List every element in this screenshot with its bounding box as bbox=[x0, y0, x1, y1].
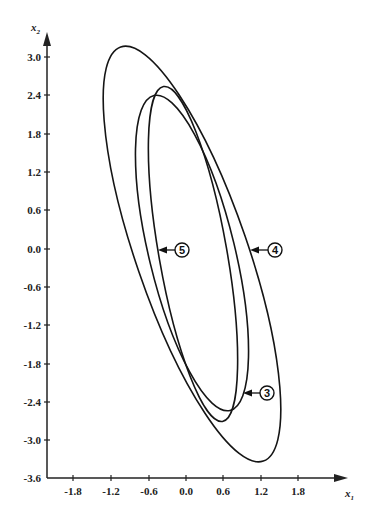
ellipse-3 bbox=[112, 85, 272, 420]
x-tick-label: 1.8 bbox=[291, 485, 305, 497]
y-tick-labels: 3.0 2.4 1.8 1.2 0.6 0.0 -0.6 -1.2 -1.8 -… bbox=[24, 51, 42, 484]
x-tick-label: -0.6 bbox=[140, 485, 158, 497]
y-tick-label: 1.8 bbox=[27, 128, 41, 140]
y-tick-label: -3.6 bbox=[24, 472, 42, 484]
x-axis bbox=[47, 474, 348, 482]
x-tick-labels: -1.8 -1.2 -0.6 0.0 0.6 1.2 1.8 bbox=[64, 485, 305, 497]
x-tick-label: 1.2 bbox=[254, 485, 268, 497]
y-tick-label: -1.8 bbox=[24, 358, 42, 370]
y-tick-label: 3.0 bbox=[27, 51, 41, 63]
x-tick-label: -1.2 bbox=[102, 485, 120, 497]
x-tick-label: 0.0 bbox=[179, 485, 193, 497]
y-tick-label: 1.2 bbox=[27, 166, 41, 178]
y-axis-arrow-icon bbox=[43, 32, 51, 46]
x-tick-label: -1.8 bbox=[64, 485, 82, 497]
callout-4: 4 bbox=[250, 243, 282, 257]
x-tick-label: 0.6 bbox=[216, 485, 230, 497]
callout-5: 5 bbox=[158, 243, 189, 257]
arrow-left-icon bbox=[158, 247, 167, 254]
y-tick-label: -2.4 bbox=[24, 396, 42, 408]
callout-label: 3 bbox=[264, 387, 270, 399]
y-tick-label: 0.0 bbox=[27, 243, 41, 255]
y-tick-label: 2.4 bbox=[27, 89, 41, 101]
y-tick-label: -1.2 bbox=[24, 319, 42, 331]
x-axis-arrow-icon bbox=[334, 474, 348, 482]
y-tick-label: -0.6 bbox=[24, 281, 42, 293]
y-axis bbox=[43, 32, 51, 478]
callout-label: 4 bbox=[272, 244, 279, 256]
callout-3: 3 bbox=[243, 386, 274, 400]
y-axis-label: x2 bbox=[30, 21, 41, 36]
y-tick-label: 0.6 bbox=[27, 204, 41, 216]
x-axis-label: x1 bbox=[344, 487, 354, 502]
callout-label: 5 bbox=[179, 244, 185, 256]
ellipse-chart: 3.0 2.4 1.8 1.2 0.6 0.0 -0.6 -1.2 -1.8 -… bbox=[0, 0, 374, 519]
y-tick-label: -3.0 bbox=[24, 434, 42, 446]
